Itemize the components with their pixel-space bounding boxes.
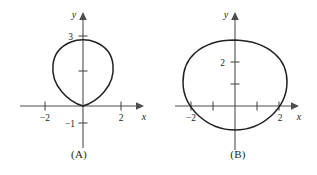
panel-a-caption: (A) xyxy=(0,148,158,160)
panel-b-xtick-label-neg2: −2 xyxy=(186,113,196,123)
panel-b-x-axis-label: x xyxy=(296,111,302,122)
panel-a-x-axis-label: x xyxy=(141,111,147,122)
panel-a-y-axis-arrowhead xyxy=(79,12,87,20)
panel-a: −2 2 3 −1 x y (A) xyxy=(0,0,158,175)
panel-a-xtick-label-2: 2 xyxy=(119,113,124,123)
panel-a-xtick-label-neg2: −2 xyxy=(40,113,50,123)
panel-b-ytick-label-2: 2 xyxy=(220,58,225,68)
panel-a-x-axis-arrowhead xyxy=(136,102,144,110)
panel-b-y-axis-arrowhead xyxy=(231,12,239,20)
panel-a-y-axis-label: y xyxy=(71,9,77,20)
panel-b-x-axis-arrowhead xyxy=(291,102,299,110)
panel-b-xtick-label-2: 2 xyxy=(278,113,283,123)
panel-b-y-axis-label: y xyxy=(223,9,229,20)
panel-a-ytick-label-3: 3 xyxy=(68,32,73,42)
figure-container: −2 2 3 −1 x y (A) xyxy=(0,0,317,175)
panel-b: −2 2 2 x y (B) xyxy=(159,0,317,175)
panel-a-ytick-label-neg1: −1 xyxy=(65,119,75,129)
panel-b-caption: (B) xyxy=(159,148,317,160)
